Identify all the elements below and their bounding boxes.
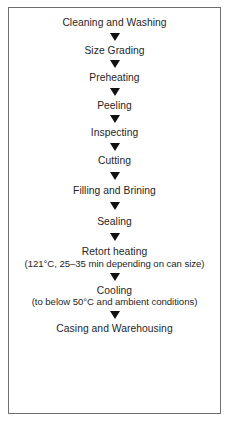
flow-step-inspecting: Inspecting bbox=[9, 127, 220, 139]
triangle-down-icon bbox=[110, 88, 120, 96]
flowchart-canvas: Cleaning and Washing Size Grading Prehea… bbox=[0, 0, 230, 423]
triangle-down-icon bbox=[110, 33, 120, 41]
step-label: Filling and Brining bbox=[9, 185, 220, 197]
flow-connector-10 bbox=[9, 308, 220, 323]
flow-connector-8 bbox=[9, 227, 220, 246]
step-label: Preheating bbox=[9, 72, 220, 84]
step-label: Inspecting bbox=[9, 127, 220, 139]
flow-connector-3 bbox=[9, 84, 220, 100]
step-label: Retort heating bbox=[9, 246, 220, 258]
flow-connector-5 bbox=[9, 139, 220, 155]
flow-connector-4 bbox=[9, 111, 220, 127]
flow-step-casing-and-warehousing: Casing and Warehousing bbox=[9, 323, 220, 335]
flow-connector-2 bbox=[9, 56, 220, 72]
flow-step-preheating: Preheating bbox=[9, 72, 220, 84]
triangle-down-icon bbox=[110, 60, 120, 68]
flow-connector-9 bbox=[9, 270, 220, 285]
flow-step-peeling: Peeling bbox=[9, 100, 220, 112]
triangle-down-icon bbox=[110, 233, 120, 241]
step-label: Cooling bbox=[9, 285, 220, 297]
flow-step-filling-and-brining: Filling and Brining bbox=[9, 185, 220, 197]
triangle-down-icon bbox=[110, 115, 120, 123]
step-label: Casing and Warehousing bbox=[9, 323, 220, 335]
flow-step-sealing: Sealing bbox=[9, 216, 220, 228]
flow-connector-1 bbox=[9, 29, 220, 45]
flow-connector-7 bbox=[9, 197, 220, 216]
flow-step-cutting: Cutting bbox=[9, 155, 220, 167]
step-label: Cleaning and Washing bbox=[9, 17, 220, 29]
triangle-down-icon bbox=[110, 202, 120, 210]
flow-step-retort-heating: Retort heating (121°C, 25–35 min dependi… bbox=[9, 246, 220, 269]
triangle-down-icon bbox=[110, 143, 120, 151]
flow-step-cleaning-and-washing: Cleaning and Washing bbox=[9, 17, 220, 29]
triangle-down-icon bbox=[110, 273, 120, 281]
triangle-down-icon bbox=[110, 172, 120, 180]
flow-step-cooling: Cooling (to below 50°C and ambient condi… bbox=[9, 285, 220, 308]
flow-step-size-grading: Size Grading bbox=[9, 45, 220, 57]
flowchart-frame: Cleaning and Washing Size Grading Prehea… bbox=[8, 7, 221, 414]
step-label: Size Grading bbox=[9, 45, 220, 57]
step-label: Cutting bbox=[9, 155, 220, 167]
step-sublabel: (121°C, 25–35 min depending on can size) bbox=[9, 259, 220, 270]
step-sublabel: (to below 50°C and ambient conditions) bbox=[9, 297, 220, 308]
step-label: Sealing bbox=[9, 216, 220, 228]
step-label: Peeling bbox=[9, 100, 220, 112]
triangle-down-icon bbox=[110, 311, 120, 319]
flow-connector-6 bbox=[9, 166, 220, 185]
